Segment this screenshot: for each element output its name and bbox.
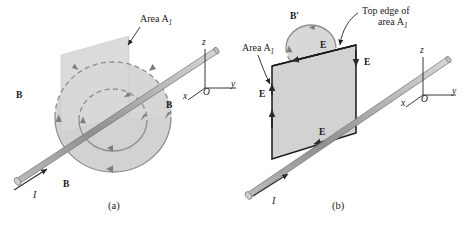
physics-figure: Area A1 B B B I z y x O (a) B′ Top edge … [0, 0, 471, 228]
panel-b-e-label-left: E [259, 90, 265, 100]
panel-a-axis-y: y [231, 80, 235, 90]
panel-a-caption: (a) [108, 200, 120, 211]
panel-b-topedge-leader [340, 13, 358, 45]
panel-b-area-subscript: 1 [271, 48, 275, 56]
panel-b-caption: (b) [332, 200, 344, 211]
panel-a-b-label-right: B [166, 101, 172, 111]
panel-a-b-label-bottom: B [63, 180, 69, 190]
panel-b-e-label-right: E [364, 58, 370, 68]
panel-b-axis-z: z [420, 46, 424, 56]
panel-b-top-edge-label: Top edge ofarea A1 [362, 6, 410, 30]
panel-a-area-leader [128, 27, 140, 45]
panel-b-bprime-label: B′ [290, 12, 299, 22]
panel-a-axis-x: x [183, 92, 187, 102]
panel-b-axis-y: y [452, 87, 456, 97]
panel-a-area-subscript: 1 [169, 19, 173, 27]
panel-a-axis-origin: O [203, 88, 210, 98]
panel-b-axis-x: x [401, 99, 405, 109]
panel-b-e-label-bottom: E [319, 128, 325, 138]
panel-b-graphic [244, 13, 456, 200]
figure-svg [0, 0, 471, 228]
panel-b-area-label: Area A1 [242, 43, 274, 57]
panel-a-area-label: Area A1 [140, 14, 172, 28]
panel-b-axis-origin: O [421, 95, 428, 105]
panel-a-current-label: I [33, 190, 36, 201]
panel-b-current-label: I [272, 196, 275, 207]
panel-b-e-label-top: E [320, 41, 326, 51]
panel-a-graphic [13, 27, 236, 190]
panel-a-axis-z: z [202, 38, 206, 48]
panel-b-area-leader [258, 55, 270, 84]
panel-a-b-label-left: B [16, 91, 22, 101]
panel-b-top-edge-subscript: 1 [404, 22, 408, 30]
